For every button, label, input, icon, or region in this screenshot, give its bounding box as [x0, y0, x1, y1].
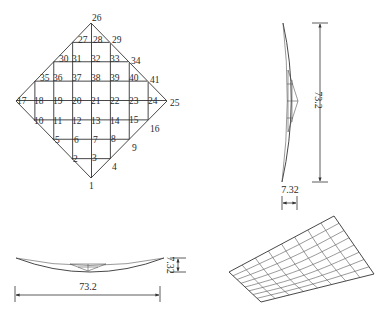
front-profile-inner-curve: [16, 258, 164, 266]
node-label: 10: [34, 116, 44, 126]
node-label: 22: [110, 96, 120, 106]
node-label: 41: [150, 75, 160, 85]
node-label: 31: [72, 54, 82, 64]
node-label: 1: [89, 181, 94, 191]
perspective-grid-line: [237, 231, 344, 280]
node-label: 18: [34, 96, 44, 106]
node-number-labels: 1234567891011121314151617181920212223242…: [17, 13, 180, 191]
dim-label-depth-horizontal: 7.32: [165, 256, 176, 274]
node-label: 38: [91, 73, 101, 83]
side-view-horizontal: 7.32 73.2: [15, 256, 186, 302]
node-label: 5: [55, 135, 60, 145]
node-label: 15: [129, 115, 139, 125]
node-label: 36: [53, 73, 63, 83]
node-label: 11: [53, 116, 62, 126]
node-label: 35: [40, 73, 50, 83]
node-label: 6: [74, 135, 79, 145]
perspective-grid-line: [321, 223, 360, 278]
node-label: 9: [132, 143, 137, 153]
node-label: 33: [110, 54, 120, 64]
node-label: 28: [93, 35, 103, 45]
node-label: 20: [72, 96, 82, 106]
perspective-grid-line: [308, 230, 346, 281]
node-label: 39: [110, 73, 120, 83]
front-profile-outer-curve: [16, 258, 164, 272]
perspective-view: [229, 216, 374, 302]
node-label: 30: [59, 54, 69, 64]
node-label: 12: [72, 116, 82, 126]
node-label: 32: [91, 54, 101, 64]
perspective-outline: [229, 216, 374, 302]
node-label: 8: [111, 134, 116, 144]
node-label: 4: [112, 162, 117, 172]
perspective-grid-line: [253, 260, 364, 295]
dim-label-width: 73.2: [79, 281, 97, 292]
node-label: 34: [131, 56, 141, 66]
node-label: 13: [91, 116, 101, 126]
node-label: 14: [110, 116, 120, 126]
node-label: 7: [93, 135, 98, 145]
hypar-shell-figure: 1234567891011121314151617181920212223242…: [0, 0, 386, 314]
perspective-grid-lines: [233, 223, 369, 299]
node-label: 26: [92, 13, 102, 23]
node-label: 16: [150, 124, 160, 134]
node-label: 25: [170, 98, 180, 108]
node-label: 21: [91, 96, 101, 106]
node-label: 2: [73, 154, 78, 164]
node-label: 29: [112, 35, 122, 45]
node-label: 17: [17, 96, 27, 106]
side-profile-outer-curve: [282, 23, 291, 182]
perspective-grid-line: [257, 267, 369, 299]
node-label: 37: [72, 73, 82, 83]
node-label: 27: [78, 35, 88, 45]
node-label: 19: [53, 96, 63, 106]
node-label: 40: [129, 73, 139, 83]
plan-view-diamond: 1234567891011121314151617181920212223242…: [16, 13, 180, 191]
node-label: 24: [148, 96, 158, 106]
side-view-vertical: 73.2 7.32: [281, 23, 328, 210]
node-label: 3: [92, 153, 97, 163]
dim-label-height: 73.2: [313, 91, 324, 109]
dim-label-depth-vertical: 7.32: [281, 184, 299, 195]
node-label: 23: [129, 96, 139, 106]
